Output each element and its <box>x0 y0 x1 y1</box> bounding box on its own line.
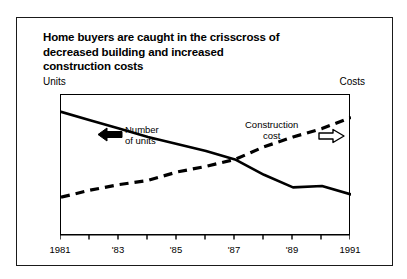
annotation-units-line-2: of units <box>125 135 159 146</box>
x-axis <box>60 234 350 244</box>
annotation-number-of-units: Number of units <box>125 124 159 146</box>
annotation-units-line-1: Number <box>125 124 159 135</box>
chart-title-line-2: decreased building and increased <box>43 45 363 60</box>
x-axis-tick-labels: 1981'83'85'87'891991 <box>60 244 350 258</box>
x-tick-label-1985: '85 <box>170 244 182 255</box>
x-tick-label-1991: 1991 <box>339 244 360 255</box>
chart-title-line-3: construction costs <box>43 59 363 74</box>
x-tick-label-1987: '87 <box>228 244 240 255</box>
plot-lines <box>61 95 351 235</box>
right-arrow-icon <box>318 128 345 144</box>
annotation-construction-cost: Construction cost <box>245 119 298 141</box>
x-tick-label-1989: '89 <box>286 244 298 255</box>
series-line-number-of-units <box>61 112 351 195</box>
annotation-cost-line-2: cost <box>245 130 298 141</box>
x-tick-label-1981: 1981 <box>49 244 70 255</box>
x-tick-label-1983: '83 <box>112 244 124 255</box>
chart-title: Home buyers are caught in the crisscross… <box>43 30 363 74</box>
chart-figure: Home buyers are caught in the crisscross… <box>16 17 393 266</box>
left-arrow-icon <box>97 127 123 142</box>
left-axis-label: Units <box>43 76 66 88</box>
chart-title-line-1: Home buyers are caught in the crisscross… <box>43 30 363 45</box>
right-axis-label: Costs <box>339 76 365 88</box>
annotation-cost-line-1: Construction <box>245 119 298 130</box>
plot-area <box>60 94 350 234</box>
